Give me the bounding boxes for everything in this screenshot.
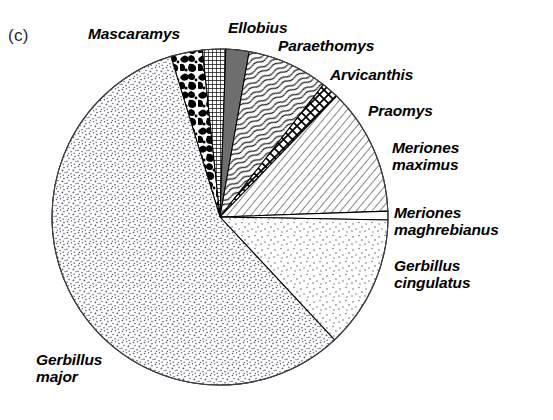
pie-label-meriones-maximus: Meriones maximus [392, 140, 459, 173]
pie-slices-group: Mascaramys — 3.1%Ellobius — 2.2%Paraetho… [52, 49, 388, 385]
pie-label-mascaramys: Mascaramys [88, 26, 180, 43]
pie-label-meriones-maghrebianus: Meriones maghrebianus [394, 205, 499, 238]
pie-chart-figure: (c) [0, 0, 553, 420]
pie-label-paraethomys: Paraethomys [278, 38, 374, 55]
pie-label-arvicanthis: Arvicanthis [330, 67, 413, 84]
pie-label-praomys: Praomys [368, 103, 433, 120]
pie-label-gerbillus-major: Gerbillus major [36, 352, 102, 385]
pie-label-ellobius: Ellobius [228, 20, 287, 37]
pie-label-gerbillus-cingulatus: Gerbillus cingulatus [394, 258, 471, 291]
